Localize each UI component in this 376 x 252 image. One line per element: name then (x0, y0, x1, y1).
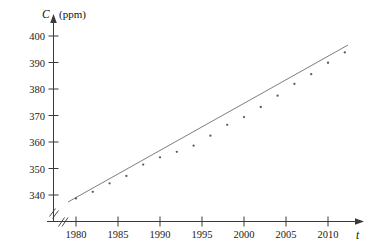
data-point (293, 83, 295, 85)
data-points-group (75, 51, 346, 199)
y-tick-label-390: 390 (29, 58, 45, 69)
data-point (344, 51, 346, 53)
data-point (125, 175, 127, 177)
y-axis (50, 14, 57, 222)
data-point (226, 124, 228, 126)
x-tick-label-1980: 1980 (66, 229, 87, 240)
x-tick-label-2010: 2010 (318, 229, 339, 240)
x-tick-labels: 1980 1985 1990 1995 2000 2005 2010 (66, 229, 339, 240)
y-axis-unit-label: (ppm) (59, 8, 86, 21)
data-point (108, 182, 110, 184)
data-point (310, 73, 312, 75)
y-axis-title: C (42, 8, 50, 20)
x-tick-label-1985: 1985 (108, 229, 129, 240)
x-axis (47, 218, 364, 225)
y-axis-arrow-icon (50, 14, 57, 23)
y-tick-label-400: 400 (29, 31, 45, 42)
x-axis-arrow-icon (355, 218, 364, 225)
x-tick-label-1995: 1995 (192, 229, 213, 240)
x-tick-label-2000: 2000 (234, 229, 255, 240)
data-point (192, 145, 194, 147)
x-tick-label-1990: 1990 (150, 229, 171, 240)
data-point (75, 197, 77, 199)
y-tick-label-380: 380 (29, 84, 45, 95)
co2-scatter-chart: 400 390 380 370 360 350 340 1980 1985 19… (0, 0, 376, 252)
data-point (92, 191, 94, 193)
y-tick-label-360: 360 (29, 137, 45, 148)
data-point (243, 116, 245, 118)
data-point (260, 106, 262, 108)
regression-fit-line (68, 45, 348, 202)
data-point (209, 134, 211, 136)
data-point (159, 156, 161, 158)
x-tick-label-2005: 2005 (276, 229, 297, 240)
x-axis-title: t (356, 229, 360, 241)
y-tick-label-340: 340 (29, 190, 45, 201)
data-point (327, 62, 329, 64)
data-point (142, 163, 144, 165)
chart-canvas: 400 390 380 370 360 350 340 1980 1985 19… (0, 0, 376, 252)
y-tick-labels: 400 390 380 370 360 350 340 (29, 31, 45, 201)
data-point (276, 94, 278, 96)
data-point (176, 151, 178, 153)
y-tick-label-350: 350 (29, 164, 45, 175)
axis-break-marks (50, 209, 69, 227)
y-tick-label-370: 370 (29, 111, 45, 122)
